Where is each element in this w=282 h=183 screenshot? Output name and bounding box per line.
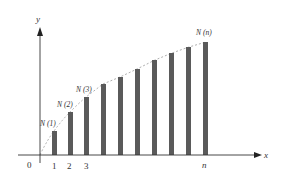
bar-7 xyxy=(152,60,157,155)
bar-label-nn: N (n) xyxy=(195,28,212,37)
y-axis-label: y xyxy=(35,14,40,24)
y-axis-arrow-icon xyxy=(37,27,43,36)
bar-label-n2: N (2) xyxy=(56,100,73,109)
bar-label-n3: N (3) xyxy=(75,85,92,94)
origin-label: 0 xyxy=(27,160,32,170)
bar-n xyxy=(203,42,208,155)
tick-3-label: 3 xyxy=(84,161,89,171)
bar-9 xyxy=(186,47,191,155)
tick-n-label: n xyxy=(202,160,207,170)
x-axis-label: x xyxy=(263,150,268,160)
bar-5 xyxy=(118,77,123,155)
tick-2-label: 2 xyxy=(67,161,72,171)
x-axis-arrow-icon xyxy=(254,152,262,158)
bar-8 xyxy=(169,53,174,155)
bar-3 xyxy=(84,97,89,155)
bar-6 xyxy=(135,69,140,155)
bar-diagram: y x 0 1 2 3 n N (1) N (2) N (3) N (n) xyxy=(0,0,282,183)
bar-4 xyxy=(101,84,106,155)
bars xyxy=(52,42,208,155)
bar-2 xyxy=(68,112,73,155)
bar-1 xyxy=(52,131,57,155)
tick-1-label: 1 xyxy=(52,161,57,171)
bar-label-n1: N (1) xyxy=(39,119,56,128)
